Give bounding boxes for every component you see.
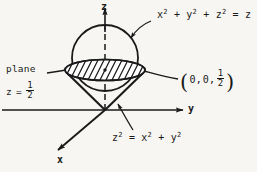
sphere-eq-rhs: z (245, 9, 251, 20)
cone-leader-line (118, 104, 133, 130)
point-leader-line (144, 71, 178, 79)
sphere-equation-label: x2 + y2 + z2 = z (157, 10, 251, 20)
point-coord-z-fraction: 1 2 (217, 69, 225, 89)
sphere-eq-op-1: + (174, 9, 180, 20)
cone-eq-exp-3: 2 (177, 131, 181, 139)
sphere-eq-exp-3: 2 (222, 8, 226, 16)
plane-eq-denominator: 2 (26, 91, 34, 101)
plane-word-label: plane (6, 64, 36, 74)
plane-eq-var: z (6, 87, 12, 97)
cone-eq-op: + (158, 132, 164, 143)
sphere-eq-exp-1: 2 (163, 8, 167, 16)
figure-canvas: z y x x2 + y2 + z2 = z plane z = 1 2 ( 0… (0, 0, 257, 172)
x-axis-label: x (57, 155, 63, 165)
sphere-eq-exp-2: 2 (193, 8, 197, 16)
point-coordinate-label: ( 0, 0, 1 2 ) (180, 70, 234, 90)
plane-eq-fraction: 1 2 (26, 81, 34, 101)
cone-eq-exp-1: 2 (118, 131, 122, 139)
z-axis-label: z (101, 2, 107, 12)
plane-equation-label: z = 1 2 (6, 82, 34, 102)
sphere-leader-line (131, 21, 151, 38)
x-axis (58, 110, 105, 150)
sphere-eq-equals: = (233, 9, 239, 20)
y-axis-label: y (188, 104, 194, 114)
plane-leader-line (47, 70, 66, 73)
plane-eq-equals: = (16, 87, 22, 97)
cone-equation-label: z2 = x2 + y2 (112, 133, 181, 143)
hatched-disk (62, 56, 154, 84)
sphere-eq-op-2: + (203, 9, 209, 20)
cone-eq-equals: = (129, 132, 135, 143)
point-z-denominator: 2 (217, 79, 225, 89)
cone-eq-exp-2: 2 (148, 131, 152, 139)
point-coord-x: 0, (189, 75, 201, 85)
point-coord-y: 0, (203, 75, 215, 85)
